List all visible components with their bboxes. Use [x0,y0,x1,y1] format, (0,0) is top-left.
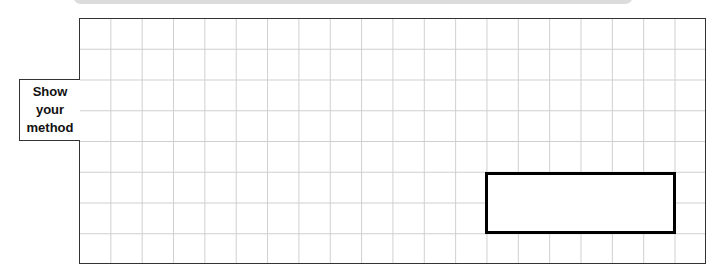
label-line-2: your [20,101,80,119]
show-your-method-label: Show your method [19,79,80,141]
answer-box[interactable] [485,172,676,234]
label-line-3: method [20,119,80,137]
label-text: Show your method [20,83,80,137]
previous-question-bar [73,0,633,4]
label-line-1: Show [20,83,80,101]
